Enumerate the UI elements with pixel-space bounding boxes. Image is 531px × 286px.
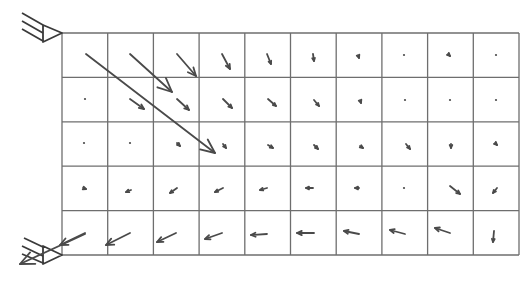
vector-dot-icon [495,54,497,56]
vector-dot-icon [403,54,405,56]
support-triangle [43,25,62,42]
arrow-shaft [177,99,189,110]
vector-dot-icon [495,99,497,101]
vector-dot-icon [449,99,451,101]
vector-arrow-icon [355,187,359,190]
vector-arrow-icon [86,54,215,153]
vector-dot-icon [129,142,131,144]
vector-arrow-icon [495,54,497,56]
supports [22,13,62,264]
vector-arrow-icon [177,54,196,76]
vector-arrow-icon [268,99,276,106]
vector-arrow-icon [83,187,86,190]
support-hatch-line [24,238,43,247]
vector-arrow-icon [268,145,273,148]
vector-arrow-icon [449,99,451,101]
vector-arrow-icon [157,233,176,242]
vector-arrow-icon [177,99,189,110]
vector-arrow-icon [344,230,359,234]
vector-arrow-icon [129,142,131,144]
vector-arrow-icon [492,231,495,242]
vector-arrow-icon [130,99,144,109]
vector-arrow-icon [260,188,267,191]
arrow-shaft [106,233,130,245]
vector-arrow-icon [450,144,453,148]
vector-dot-icon [83,142,85,144]
vector-dot-icon [404,99,406,101]
vector-arrow-icon [177,143,180,146]
vector-arrow-icon [403,54,405,56]
vector-dot-icon [84,98,86,100]
arrow-shaft [86,54,215,153]
vector-arrow-icon [215,188,223,192]
vector-arrow-icon [83,142,85,144]
vector-arrow-icon [390,229,405,234]
vector-arrow-icon [494,142,497,145]
vector-arrow-icon [357,55,360,58]
arrow-shaft [177,54,196,76]
vector-arrow-icon [435,228,450,233]
vector-arrow-icon [130,54,172,92]
vector-arrow-icon [312,54,315,61]
vector-arrow-icon [306,187,313,190]
vector-arrow-icon [170,188,177,193]
vector-arrow-icon [297,231,314,235]
top-pin-support-icon [22,13,62,42]
vector-arrow-icon [406,144,410,149]
vector-arrow-icon [404,99,406,101]
vector-field-diagram [0,0,531,286]
vector-arrow-icon [84,98,86,100]
arrow-shaft [130,54,172,92]
vector-arrow-icon [222,54,230,69]
diagram-canvas [0,0,531,286]
vector-arrow-icon [223,144,226,148]
vector-arrow-icon [359,100,362,103]
vector-arrows [60,53,497,245]
vector-arrow-icon [106,233,130,245]
vector-arrow-icon [126,190,131,193]
vector-arrow-icon [314,100,319,106]
vector-arrow-icon [447,53,450,56]
vector-arrow-icon [314,145,318,149]
vector-arrow-icon [205,233,222,239]
vector-arrow-icon [360,145,363,148]
vector-dot-icon [403,187,405,189]
vector-arrow-icon [267,54,271,64]
vector-arrow-icon [403,187,405,189]
vector-arrow-icon [493,188,497,193]
vector-arrow-icon [251,233,267,237]
vector-arrow-icon [495,99,497,101]
vector-arrow-icon [223,99,232,108]
vector-arrow-icon [450,186,460,194]
